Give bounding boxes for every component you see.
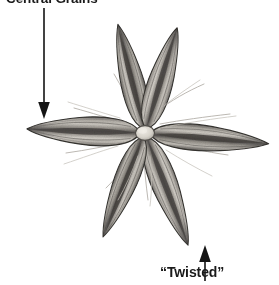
annotation-arrows (0, 0, 279, 285)
arrow-central-grains (38, 8, 50, 119)
specimen-figure: Central Grains “Twisted” (0, 0, 279, 285)
label-central-grains: Central Grains (6, 0, 98, 6)
label-twisted: “Twisted” (160, 264, 224, 280)
